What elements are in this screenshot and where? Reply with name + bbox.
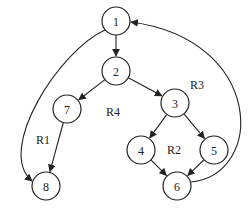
edge-7-to-8: [50, 123, 63, 172]
edge-3-to-4: [150, 114, 167, 138]
node-label: 6: [174, 180, 180, 194]
node-3: 3: [161, 89, 189, 117]
edge-4-to-6: [151, 160, 166, 175]
node-2: 2: [102, 57, 130, 85]
node-7: 7: [53, 95, 81, 123]
nodes: 12345678: [32, 7, 228, 200]
node-8: 8: [32, 172, 60, 200]
node-label: 2: [113, 65, 119, 79]
node-label: 8: [43, 180, 49, 194]
node-1: 1: [102, 7, 130, 35]
region-label-r1: R1: [36, 133, 50, 147]
control-flow-graph: 12345678 R1R2R3R4: [0, 0, 251, 212]
node-label: 5: [211, 144, 217, 158]
edge-5-to-6: [188, 160, 204, 176]
region-label-r2: R2: [167, 143, 181, 157]
edge-2-to-3: [128, 78, 162, 96]
region-label-r3: R3: [190, 78, 204, 92]
node-label: 3: [172, 97, 178, 111]
region-label-r4: R4: [106, 105, 120, 119]
node-4: 4: [127, 136, 155, 164]
node-label: 1: [113, 15, 119, 29]
node-label: 4: [138, 144, 144, 158]
node-6: 6: [163, 172, 191, 200]
edge-2-to-7: [79, 80, 105, 100]
edge-3-to-5: [184, 114, 204, 139]
node-5: 5: [200, 136, 228, 164]
node-label: 7: [64, 103, 70, 117]
